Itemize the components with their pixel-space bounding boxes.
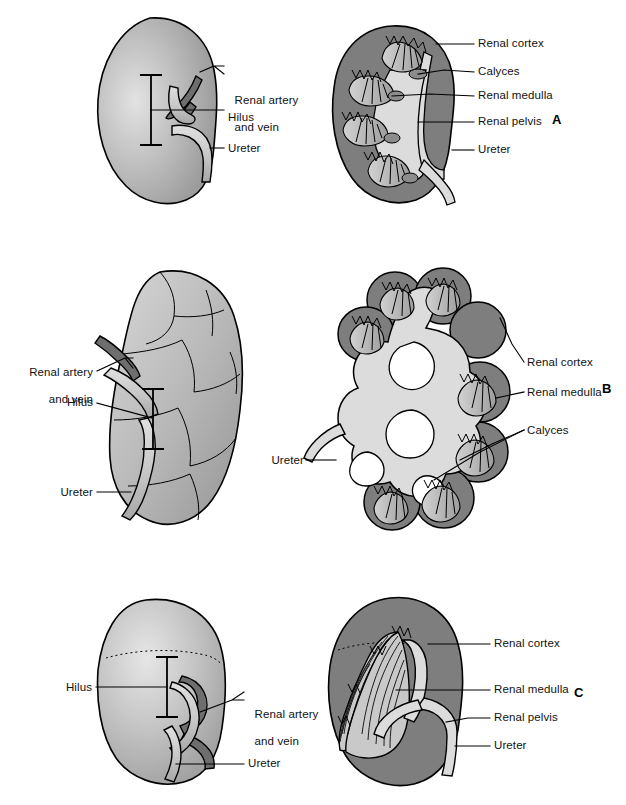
panel-b-external-lobulated-kidney — [95, 271, 242, 524]
panel-a-cross-section — [333, 26, 474, 205]
label-renal-cortex-c: Renal cortex — [494, 637, 560, 651]
label-calyces-b: Calyces — [527, 424, 569, 438]
panel-a-external-kidney — [98, 18, 224, 204]
label-renal-medulla-c: Renal medulla — [494, 683, 569, 697]
label-hilus-a-external: Hilus — [228, 111, 254, 125]
label-ureter-b-cross: Ureter — [228, 454, 304, 468]
panel-letter-b: B — [602, 381, 611, 396]
label-line1: Renal artery — [255, 708, 319, 720]
label-line1: Renal artery — [29, 366, 93, 378]
panel-c-external-kidney — [96, 599, 244, 784]
panel-letter-c: C — [574, 685, 583, 700]
label-renal-cortex-a: Renal cortex — [478, 37, 544, 51]
label-hilus-b-external: Hilus — [0, 396, 93, 410]
label-ureter-a-external: Ureter — [228, 142, 261, 156]
label-line2: and vein — [255, 735, 299, 747]
panel-b-cross-section-lobulated — [304, 268, 524, 530]
label-hilus-c-external: Hilus — [0, 681, 92, 695]
label-renal-pelvis-a: Renal pelvis — [478, 115, 542, 129]
label-ureter-b-external: Ureter — [0, 486, 93, 500]
label-calyces-a: Calyces — [478, 65, 520, 79]
kidney-comparative-figure: A Renal artery and vein Hilus Ureter Ren… — [0, 0, 626, 805]
label-ureter-a-cross: Ureter — [478, 143, 511, 157]
label-renal-artery-and-vein-a-external: Renal artery and vein — [228, 80, 298, 134]
label-renal-medulla-a: Renal medulla — [478, 89, 553, 103]
label-ureter-c-cross: Ureter — [494, 739, 527, 753]
label-renal-medulla-b: Renal medulla — [527, 386, 602, 400]
panel-letter-a: A — [552, 112, 561, 127]
label-ureter-c-external: Ureter — [248, 757, 281, 771]
label-renal-cortex-b: Renal cortex — [527, 356, 593, 370]
panel-c-cross-section — [329, 597, 490, 785]
label-renal-artery-and-vein-c-external: Renal artery and vein — [248, 694, 318, 748]
label-line1: Renal artery — [235, 94, 299, 106]
label-renal-pelvis-c: Renal pelvis — [494, 711, 558, 725]
